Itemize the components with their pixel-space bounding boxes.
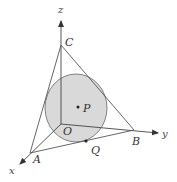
- x-axis-label: x: [9, 165, 15, 176]
- y-axis-label: y: [161, 128, 168, 139]
- point-A-label: A: [32, 153, 41, 166]
- inscribed-circle: [45, 74, 107, 142]
- point-Q-label: Q: [91, 144, 100, 157]
- point-P-label: P: [82, 102, 91, 115]
- tetrahedron-diagram: z y x C O A B P Q: [0, 0, 177, 182]
- z-axis-label: z: [57, 4, 64, 15]
- point-Q: [84, 139, 87, 142]
- point-C-label: C: [65, 36, 74, 49]
- point-O-label: O: [63, 125, 72, 138]
- point-P: [77, 106, 80, 109]
- diagram-canvas: z y x C O A B P Q: [0, 0, 177, 182]
- point-B-label: B: [131, 135, 140, 148]
